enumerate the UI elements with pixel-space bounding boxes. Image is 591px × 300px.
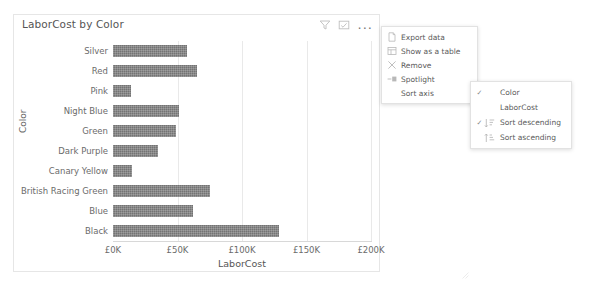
x-axis-tick-label: £0K xyxy=(105,245,121,255)
x-axis-tick-label: £150K xyxy=(293,245,320,255)
category-label: British Racing Green xyxy=(21,186,108,196)
x-axis-title: LaborCost xyxy=(113,258,371,269)
bar[interactable] xyxy=(113,125,176,137)
category-label: Blue xyxy=(89,206,108,216)
category-label: Green xyxy=(82,126,108,136)
bar[interactable] xyxy=(113,165,132,177)
bar-row: British Racing Green xyxy=(113,185,371,197)
export-data-icon xyxy=(387,32,397,42)
submenu-item-sort-descending[interactable]: ✓ Sort descending xyxy=(471,115,571,130)
category-label: Red xyxy=(92,66,108,76)
check-icon: ✓ xyxy=(475,119,484,127)
bar-row: Black xyxy=(113,225,371,237)
category-label: Silver xyxy=(84,46,108,56)
menu-item-sort-axis[interactable]: Sort axis › xyxy=(382,86,477,100)
bar-row: Silver xyxy=(113,45,371,57)
filter-icon[interactable] xyxy=(319,19,331,31)
spotlight-icon xyxy=(387,74,397,84)
menu-item-label: Spotlight xyxy=(401,75,473,84)
more-options-menu[interactable]: Export data Show as a table Remove Spotl… xyxy=(381,26,478,104)
menu-item-spotlight[interactable]: Spotlight xyxy=(382,72,477,86)
submenu-item-sort-ascending[interactable]: Sort ascending xyxy=(471,130,571,145)
menu-item-label: Remove xyxy=(401,61,473,70)
category-label: Dark Purple xyxy=(58,146,108,156)
bar[interactable] xyxy=(113,105,179,117)
bar-row: Blue xyxy=(113,205,371,217)
menu-item-label: Export data xyxy=(401,33,473,42)
bar-row: Night Blue xyxy=(113,105,371,117)
menu-item-label: Show as a table xyxy=(401,47,473,56)
bar-row: Pink xyxy=(113,85,371,97)
x-axis-tick-label: £50K xyxy=(167,245,189,255)
sort-ascending-icon xyxy=(484,133,495,143)
submenu-item-laborcost[interactable]: LaborCost xyxy=(471,100,571,115)
chart-visual-card[interactable]: LaborCost by Color ... Color SilverRedPi… xyxy=(13,14,380,272)
bars-container: SilverRedPinkNight BlueGreenDark PurpleC… xyxy=(113,41,371,241)
page-title: LaborCost by Color xyxy=(22,18,124,30)
focus-mode-icon[interactable] xyxy=(338,19,350,31)
table-icon xyxy=(387,46,397,56)
submenu-item-label: Sort ascending xyxy=(498,133,567,142)
category-label: Black xyxy=(85,226,108,236)
menu-item-remove[interactable]: Remove xyxy=(382,58,477,72)
menu-item-export-data[interactable]: Export data xyxy=(382,30,477,44)
bar[interactable] xyxy=(113,65,197,77)
check-icon: ✓ xyxy=(475,89,484,97)
submenu-item-label: LaborCost xyxy=(498,103,567,112)
visual-header-actions: ... xyxy=(319,19,374,31)
submenu-item-label: Color xyxy=(498,88,567,97)
submenu-item-label: Sort descending xyxy=(498,118,567,127)
bar[interactable] xyxy=(113,85,131,97)
resize-handle[interactable] xyxy=(462,272,469,279)
plot-area: Color SilverRedPinkNight BlueGreenDark P… xyxy=(14,37,381,272)
remove-icon xyxy=(387,60,397,70)
gridline xyxy=(371,41,372,241)
bar-row: Red xyxy=(113,65,371,77)
y-axis-title: Color xyxy=(18,110,28,134)
bar-row: Green xyxy=(113,125,371,137)
sort-axis-submenu[interactable]: ✓ Color LaborCost ✓ Sort descending Sort… xyxy=(470,81,572,149)
category-label: Pink xyxy=(90,86,108,96)
submenu-item-color[interactable]: ✓ Color xyxy=(471,85,571,100)
x-axis-tick-label: £200K xyxy=(357,245,384,255)
category-label: Night Blue xyxy=(64,106,108,116)
bar[interactable] xyxy=(113,145,158,157)
bar-row: Dark Purple xyxy=(113,145,371,157)
category-label: Canary Yellow xyxy=(49,166,108,176)
bar[interactable] xyxy=(113,45,187,57)
x-axis-tick-label: £100K xyxy=(228,245,255,255)
bar-row: Canary Yellow xyxy=(113,165,371,177)
bar[interactable] xyxy=(113,205,193,217)
x-axis-line xyxy=(113,241,372,242)
bar[interactable] xyxy=(113,185,210,197)
sort-descending-icon xyxy=(484,118,495,128)
menu-item-show-as-a-table[interactable]: Show as a table xyxy=(382,44,477,58)
bar[interactable] xyxy=(113,225,279,237)
more-options-icon[interactable]: ... xyxy=(357,21,374,29)
menu-item-label: Sort axis xyxy=(401,89,466,98)
visual-header: LaborCost by Color ... xyxy=(14,15,379,37)
